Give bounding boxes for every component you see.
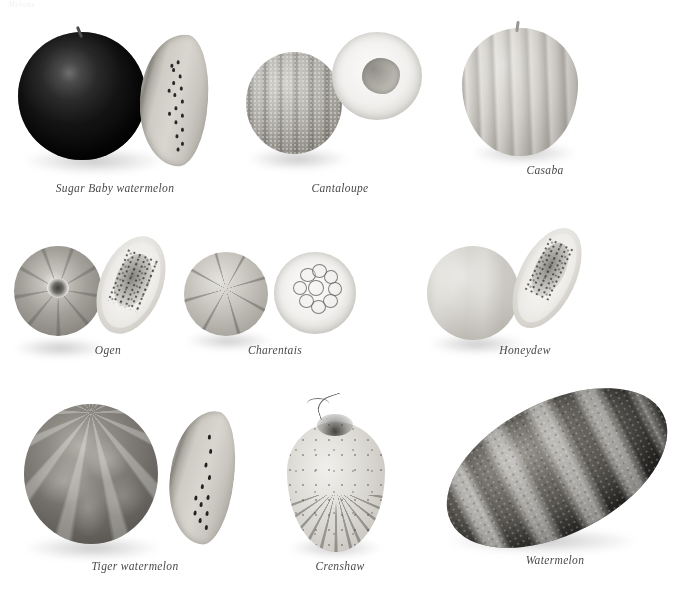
tiger-whole-melon: [24, 404, 158, 544]
sugar-baby-cut-wedge: [135, 32, 212, 168]
figure-cantaloupe: Cantaloupe: [240, 30, 440, 200]
suture-texture: [184, 252, 268, 336]
caption-crenshaw: Crenshaw: [265, 560, 415, 573]
melon-plate: Melons: [0, 0, 700, 604]
figure-sugar-baby-watermelon: Sugar Baby watermelon: [10, 18, 220, 198]
seed-cluster: [299, 294, 314, 308]
honeydew-whole-melon: [427, 246, 519, 340]
tendril: [307, 398, 329, 409]
seed-cavity: [362, 58, 400, 94]
seed-cluster-center: [308, 280, 324, 296]
rib-texture: [462, 28, 578, 156]
stem-scar: [47, 278, 69, 298]
figure-honeydew: Honeydew: [415, 218, 635, 368]
figure-charentais: Charentais: [180, 240, 370, 370]
figure-tiger-watermelon: Tiger watermelon: [10, 396, 260, 586]
wedge-flesh: [135, 32, 212, 168]
net-texture: [246, 52, 342, 154]
caption-sugar-baby-watermelon: Sugar Baby watermelon: [10, 182, 220, 195]
base-streak-texture: [287, 495, 385, 552]
surface-sheen: [427, 246, 519, 340]
caption-cantaloupe: Cantaloupe: [240, 182, 440, 195]
figure-watermelon: Watermelon: [420, 386, 690, 582]
caption-casaba: Casaba: [450, 164, 640, 177]
charentais-whole-melon: [184, 252, 268, 336]
ogen-whole-melon: [14, 246, 102, 336]
figure-casaba: Casaba: [450, 14, 640, 184]
running-head: Melons: [8, 0, 428, 9]
figure-ogen: Ogen: [8, 232, 208, 372]
caption-charentais: Charentais: [180, 344, 370, 357]
crenshaw-whole-melon: [287, 422, 385, 552]
caption-watermelon: Watermelon: [420, 554, 690, 567]
caption-ogen: Ogen: [8, 344, 208, 357]
charentais-cut-half: [274, 252, 356, 334]
cantaloupe-cut-half: [332, 32, 422, 120]
watermelon-whole-melon: [421, 355, 693, 581]
caption-tiger-watermelon: Tiger watermelon: [10, 560, 260, 573]
figure-crenshaw: Crenshaw: [265, 392, 415, 582]
cantaloupe-whole-melon: [246, 52, 342, 154]
sugar-baby-whole-melon: [18, 32, 146, 160]
tiger-cut-wedge: [162, 407, 242, 548]
wedge-flesh: [162, 407, 242, 548]
mottle-texture: [24, 404, 158, 544]
seed-cluster: [293, 281, 307, 295]
caption-honeydew: Honeydew: [415, 344, 635, 357]
casaba-whole-melon: [462, 28, 578, 156]
surface-texture: [421, 355, 693, 581]
